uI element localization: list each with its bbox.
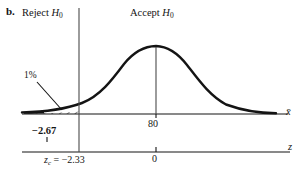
accept-hypothesis-symbol: H bbox=[162, 7, 170, 18]
callout-leader-line bbox=[37, 82, 62, 110]
significance-level-label: 1% bbox=[24, 71, 37, 81]
part-label: b. bbox=[6, 6, 15, 17]
hypothesis-test-figure: b. Reject H0 Accept H0 1% 80 0 −2.67 zc … bbox=[0, 0, 301, 178]
critical-value-equals: = bbox=[51, 154, 62, 165]
test-statistic-label: −2.67 bbox=[32, 126, 56, 137]
reject-region-text: Reject bbox=[22, 7, 49, 18]
diagram-canvas bbox=[0, 0, 301, 178]
xbar-tick-label-80: 80 bbox=[148, 119, 158, 129]
normal-curve bbox=[22, 46, 276, 113]
z-axis-label: z bbox=[288, 142, 292, 153]
reject-hypothesis-symbol: H bbox=[51, 7, 59, 18]
critical-value-label: zc = −2.33 bbox=[44, 155, 85, 167]
z-tick-label-0: 0 bbox=[152, 154, 157, 164]
reject-hypothesis-subscript: 0 bbox=[59, 11, 63, 20]
accept-region-text: Accept bbox=[130, 7, 160, 18]
accept-region-label: Accept H0 bbox=[130, 8, 174, 20]
critical-value-number: −2.33 bbox=[62, 154, 85, 165]
xbar-axis-label: x̄ bbox=[286, 107, 291, 118]
reject-region-label: Reject H0 bbox=[22, 8, 63, 20]
accept-hypothesis-subscript: 0 bbox=[170, 11, 174, 20]
